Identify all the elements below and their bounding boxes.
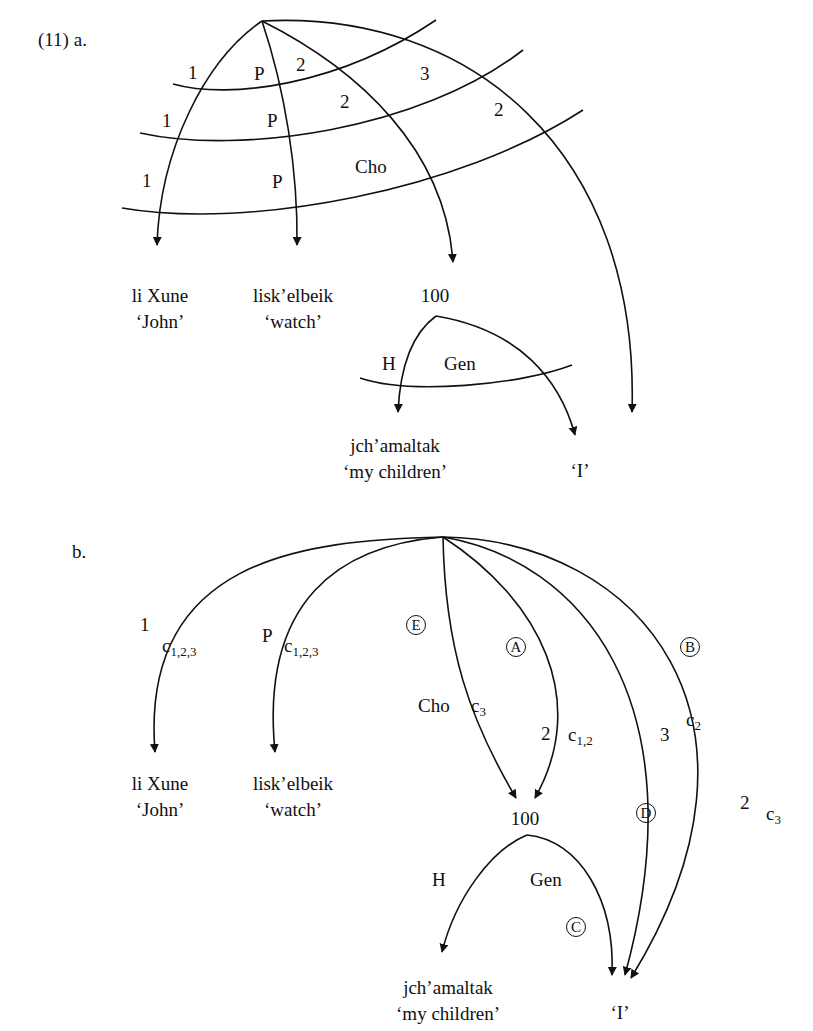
node-watch: lisk’elbeik‘watch’ (238, 283, 348, 334)
circled-label-E: E (406, 614, 426, 635)
arc-label: 2 (541, 724, 551, 743)
arc-label: 2 (740, 793, 750, 812)
arc-a-P (262, 21, 297, 245)
arc-label: 2 (340, 92, 350, 111)
arc-label: H (382, 354, 396, 373)
arc-label: P (254, 64, 265, 83)
arc-label: c1,2,3 (162, 636, 196, 658)
node-john: li Xune‘John’ (110, 771, 210, 822)
circled-label-A: A (506, 636, 526, 657)
arc-label: c1,2 (568, 725, 593, 747)
arc-label: c1,2,3 (284, 636, 318, 658)
arc-label: Cho (355, 157, 387, 176)
arc-b-cho (443, 537, 516, 798)
node-100: 100 (495, 806, 555, 832)
circled-label-B: B (680, 636, 700, 657)
arc-label: 2 (494, 100, 504, 119)
arc-label: P (262, 626, 273, 645)
arc-label: c2 (686, 710, 701, 732)
example-number: (11) a. (38, 30, 87, 49)
node-100: 100 (405, 283, 465, 309)
node-children: jch’amaltak‘my children’ (378, 975, 518, 1026)
part-b-label: b. (72, 542, 86, 561)
arc-a-Gen (436, 316, 575, 435)
arc-label: c3 (766, 804, 781, 826)
arc-a-H (398, 316, 436, 412)
arc-label: 3 (420, 64, 430, 83)
arc-label: P (267, 111, 278, 130)
arc-b-H (442, 835, 527, 952)
arc-label: Gen (530, 870, 562, 889)
arc-label: 1 (140, 615, 150, 634)
circled-label-D: D (636, 802, 656, 823)
node-john: li Xune‘John’ (110, 283, 210, 334)
arc-b-Gen (527, 835, 612, 975)
arc-a-1 (157, 21, 262, 245)
arc-b-3 (443, 537, 648, 975)
arc-label: Cho (418, 696, 450, 715)
relational-network-diagram (0, 0, 813, 1031)
arc-label: 1 (188, 63, 198, 82)
arc-label: 1 (142, 171, 152, 190)
arc-label: 1 (162, 111, 172, 130)
arc-label: H (432, 870, 446, 889)
node-i: ‘I’ (600, 1000, 640, 1026)
arc-label: P (272, 172, 283, 191)
arc-label: 2 (296, 55, 306, 74)
arc-label: c3 (471, 696, 486, 718)
node-watch: lisk’elbeik‘watch’ (238, 771, 348, 822)
node-children: jch’amaltak‘my children’ (325, 433, 465, 484)
node-i: ‘I’ (560, 458, 600, 484)
circled-label-C: C (566, 916, 586, 937)
arc-label: Gen (444, 354, 476, 373)
arc-label: 3 (660, 725, 670, 744)
